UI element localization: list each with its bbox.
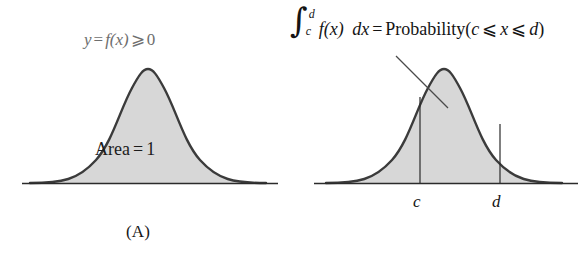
- panel-b-shaded-area: [326, 69, 562, 183]
- integral-rhs-word: Probability: [385, 19, 465, 39]
- integral-rhs-leq-1: ⩽: [479, 19, 500, 39]
- panel-b-axis-label-c: c: [413, 192, 421, 212]
- integral-rhs-d: d: [529, 19, 538, 39]
- integral-upper-limit: d: [309, 7, 315, 22]
- panel-a-curve-label-equals: =: [92, 30, 106, 49]
- panel-a-area-label: Area=1: [95, 140, 155, 158]
- panel-b-axis-label-d: d: [492, 192, 501, 212]
- panel-a-curve-label-fx: f(x): [105, 30, 129, 49]
- panel-a-curve-label-zero: 0: [147, 30, 156, 49]
- integral-rhs-leq-2: ⩽: [508, 19, 529, 39]
- panel-a-caption: (A): [126, 222, 150, 242]
- panel-b-integral-expression: ∫dcf(x) dx=Probability(c⩽x⩽d): [290, 8, 544, 40]
- integral-equals: =: [369, 19, 385, 39]
- integral-integrand: f(x): [319, 19, 344, 39]
- panel-a: y=f(x)⩾0 Area=1 (A): [0, 0, 292, 259]
- panel-a-area-word: Area: [95, 139, 130, 159]
- integral-body: f(x) dx=Probability(c⩽x⩽d): [319, 18, 545, 40]
- panel-a-curve-label-y: y: [84, 30, 92, 49]
- integral-limits: dc: [309, 8, 318, 38]
- panel-a-area-value: 1: [146, 139, 155, 159]
- panel-a-area-equals: =: [130, 139, 146, 159]
- integral-rhs-close-paren: ): [538, 19, 544, 39]
- integral-lower-limit: c: [306, 24, 311, 39]
- probability-density-figure: y=f(x)⩾0 Area=1 (A) (B) c d ∫dcf(x) dx=P: [0, 0, 584, 259]
- integral-differential: dx: [352, 19, 369, 39]
- panel-a-curve-label-geq: ⩾: [129, 30, 147, 49]
- panel-a-shaded-area: [30, 69, 266, 183]
- panel-a-curve-label: y=f(x)⩾0: [84, 31, 155, 48]
